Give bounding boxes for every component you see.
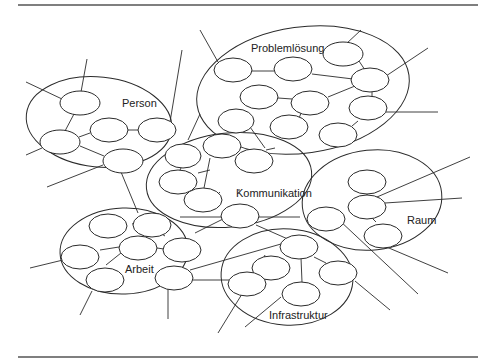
- label-raum: Raum: [407, 214, 436, 226]
- node: [270, 115, 308, 139]
- node: [348, 195, 386, 219]
- node: [221, 204, 259, 228]
- node: [348, 170, 386, 194]
- nodes-arbeit: [61, 213, 201, 292]
- node: [103, 149, 143, 173]
- node: [282, 282, 320, 306]
- node: [351, 68, 389, 92]
- node: [60, 91, 100, 115]
- label-person: Person: [122, 97, 157, 109]
- label-arbeit: Arbeit: [125, 263, 154, 275]
- node: [240, 85, 278, 109]
- node: [323, 42, 363, 66]
- node: [349, 96, 387, 120]
- node: [280, 235, 318, 259]
- node: [214, 58, 252, 82]
- node: [40, 130, 80, 154]
- nodes-raum: [307, 170, 402, 248]
- node: [61, 245, 99, 269]
- node: [291, 91, 329, 115]
- node: [307, 207, 345, 231]
- node: [119, 236, 157, 260]
- node: [90, 118, 128, 142]
- node: [138, 118, 176, 142]
- node: [319, 123, 357, 147]
- nodes-kommunikation: [159, 134, 273, 228]
- node: [218, 109, 254, 133]
- node: [86, 268, 124, 292]
- node: [133, 213, 171, 237]
- cluster-network-diagram: Person Problemlösung Kommunikation Raum …: [0, 0, 493, 358]
- internal-edges: [65, 61, 376, 282]
- node: [89, 214, 127, 238]
- node: [203, 134, 241, 158]
- label-infrastruktur: Infrastruktur: [269, 309, 328, 321]
- node: [235, 149, 273, 173]
- node: [184, 188, 222, 212]
- node: [228, 272, 266, 296]
- label-problemloesung: Problemlösung: [251, 42, 324, 54]
- nodes-problemloesung: [214, 42, 389, 147]
- node: [364, 224, 402, 248]
- node: [319, 261, 357, 285]
- node: [155, 266, 193, 290]
- label-kommunikation: Kommunikation: [236, 187, 312, 199]
- node: [274, 57, 312, 81]
- node: [163, 238, 201, 262]
- node: [165, 144, 201, 168]
